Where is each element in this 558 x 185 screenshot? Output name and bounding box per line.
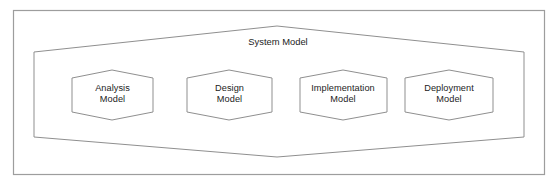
design-model-label-line1: Design [187, 83, 272, 94]
analysis-model-label-line1: Analysis [72, 83, 153, 94]
analysis-model-label: Analysis Model [72, 83, 153, 105]
analysis-model-label-line2: Model [72, 94, 153, 105]
diagram-canvas: System Model Analysis Model Design Model… [0, 0, 558, 185]
deployment-model-label: Deployment Model [403, 83, 495, 105]
deployment-model-label-line1: Deployment [403, 83, 495, 94]
design-model-label: Design Model [187, 83, 272, 105]
system-model-title: System Model [223, 36, 333, 48]
design-model-label-line2: Model [187, 94, 272, 105]
deployment-model-label-line2: Model [403, 94, 495, 105]
implementation-model-label: Implementation Model [295, 83, 391, 105]
implementation-model-label-line2: Model [295, 94, 391, 105]
implementation-model-label-line1: Implementation [295, 83, 391, 94]
system-model-title-line1: System [248, 36, 279, 47]
system-model-title-line2: Model [282, 36, 308, 47]
